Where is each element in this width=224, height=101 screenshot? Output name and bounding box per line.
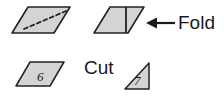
parallelogram-outline (12, 7, 70, 33)
shape-number-six: 6 (37, 69, 44, 84)
cut-label: Cut (84, 58, 114, 77)
fold-label: Fold (178, 13, 215, 32)
left-arrow-icon (146, 13, 176, 33)
triangle-seven-shape: 7 (120, 58, 160, 98)
parallelogram-outline (94, 7, 144, 33)
parallelogram-six-shape: 6 (12, 58, 70, 98)
diagram-canvas: Fold 6 Cut 7 (0, 0, 224, 101)
shape-number-seven: 7 (134, 73, 141, 88)
parallelogram-fold-shape (90, 2, 150, 42)
parallelogram-dashed-shape (8, 2, 76, 42)
